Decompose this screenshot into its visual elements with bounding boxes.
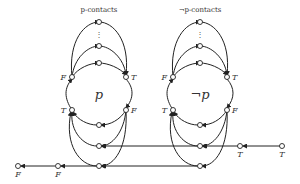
node: [97, 20, 102, 25]
node: [97, 61, 102, 66]
edge: [99, 22, 127, 75]
edge: [101, 110, 126, 166]
label-t: T: [237, 150, 243, 159]
edge: [174, 112, 198, 125]
node: [198, 164, 203, 169]
edge: [170, 112, 198, 166]
label-f: F: [130, 106, 137, 115]
node: [97, 44, 102, 49]
edge: [101, 110, 126, 125]
left-cluster-title: p-contacts: [81, 6, 118, 14]
node: [198, 123, 203, 128]
label-f: F: [54, 170, 61, 179]
right-cluster-title: ¬p-contacts: [179, 6, 222, 14]
edge: [167, 79, 173, 110]
left-cluster: p-contacts ⋮ p F T T F: [59, 6, 137, 169]
edge: [202, 110, 227, 166]
label-t: T: [61, 106, 67, 115]
node: [198, 144, 203, 149]
edge: [99, 63, 126, 75]
label-t: T: [232, 73, 238, 82]
right-chain: T T: [102, 144, 285, 160]
edge: [69, 112, 97, 166]
node: [225, 108, 230, 113]
node: [124, 75, 129, 80]
edge: [72, 63, 99, 77]
node: [97, 144, 102, 149]
node: [198, 61, 203, 66]
edge: [200, 22, 228, 75]
edge: [173, 63, 200, 77]
ellipsis: ⋮: [196, 30, 204, 39]
left-center-label: p: [95, 87, 104, 102]
edge: [73, 112, 97, 125]
label-f: F: [231, 106, 238, 115]
node: [70, 108, 75, 113]
label-t: T: [279, 150, 285, 159]
node: [16, 164, 21, 169]
node: [238, 144, 243, 149]
node: [97, 164, 102, 169]
label-t: T: [162, 106, 168, 115]
node: [70, 75, 75, 80]
label-f: F: [59, 73, 66, 82]
bottom-left-chain: F F: [14, 164, 197, 180]
edge: [227, 79, 233, 108]
label-t: T: [131, 73, 137, 82]
label-f: F: [160, 73, 167, 82]
node: [171, 108, 176, 113]
node: [198, 44, 203, 49]
node: [280, 144, 285, 149]
right-cluster: ¬p-contacts ⋮ ¬p F T T F: [160, 6, 238, 169]
node: [198, 20, 203, 25]
diagram-canvas: p-contacts ⋮ p F T T F ¬p-c: [0, 0, 300, 184]
edge: [126, 79, 132, 108]
node: [97, 123, 102, 128]
edge: [200, 63, 227, 75]
edge: [173, 112, 198, 146]
right-center-label: ¬p: [190, 87, 210, 102]
edge: [202, 110, 227, 125]
node: [56, 164, 61, 169]
edge: [72, 112, 97, 146]
node: [124, 108, 129, 113]
ellipsis: ⋮: [95, 30, 103, 39]
label-f: F: [14, 170, 21, 179]
node: [171, 75, 176, 80]
edge: [66, 79, 72, 110]
node: [225, 75, 230, 80]
